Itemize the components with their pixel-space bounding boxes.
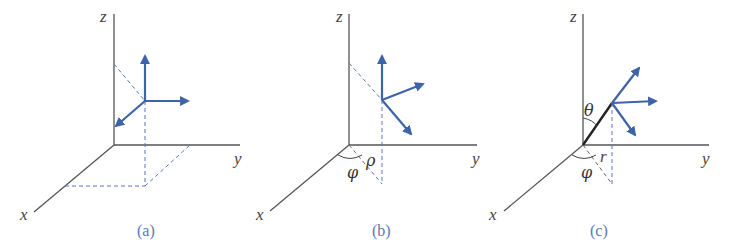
projection-dash (145, 145, 190, 186)
x-axis (270, 145, 349, 211)
projection-dash (114, 64, 145, 101)
y-axis-label: y (232, 149, 242, 168)
projection-dash (349, 63, 382, 100)
x-axis (504, 145, 583, 211)
phi-label: φ (347, 163, 359, 182)
phi-label: φ (581, 163, 593, 182)
x-axis (34, 145, 114, 212)
z-axis-label: z (99, 7, 107, 26)
unit-vector-phi (612, 101, 656, 103)
x-axis-label: x (19, 205, 28, 224)
z-axis-label: z (569, 7, 577, 26)
y-axis-label: y (700, 149, 710, 168)
y-axis-label: y (470, 149, 480, 168)
unit-vector-phi (382, 84, 423, 100)
x-axis-label: x (255, 205, 264, 224)
caption-b: (b) (372, 222, 391, 240)
unit-vector-rho (382, 100, 411, 134)
x-axis-label: x (488, 205, 497, 224)
panel-c: z y x θ φ r (c) (488, 7, 710, 240)
coordinate-systems-figure: z y x (a) z y x φ ρ (b) z y (0, 0, 747, 246)
theta-label: θ (584, 101, 594, 120)
caption-a: (a) (137, 222, 155, 240)
z-axis-label: z (335, 7, 343, 26)
unit-vector-r (612, 68, 639, 103)
rho-label: ρ (365, 151, 376, 170)
panel-a: z y x (a) (19, 7, 242, 240)
r-label: r (600, 147, 607, 166)
panel-b: z y x φ ρ (b) (255, 7, 480, 240)
unit-vector-theta (612, 103, 635, 135)
unit-vector-x (116, 101, 145, 126)
caption-c: (c) (590, 222, 608, 240)
